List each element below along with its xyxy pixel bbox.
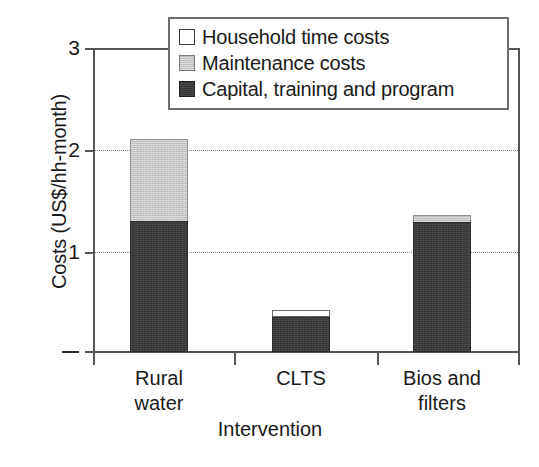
bar-chart-figure: Costs (US$/hh-month) 3 2 1: [0, 0, 539, 467]
x-axis-title: Intervention: [170, 418, 370, 441]
legend-label-capital-training-and-program: Capital, training and program: [202, 79, 454, 99]
axis-right-spine: [518, 48, 520, 353]
legend-label-household-time-costs: Household time costs: [202, 27, 389, 47]
y-tick-label-2: 2: [44, 139, 80, 160]
x-category-line2-rural-water: water: [84, 391, 234, 416]
chart-legend: Household time costs Maintenance costs C…: [168, 17, 509, 110]
y-tick-mark-3: [85, 48, 95, 50]
x-category-label-clts: CLTS: [226, 366, 376, 391]
bar-segment-clts-capital: [272, 317, 330, 352]
legend-swatch-white-icon: [179, 29, 195, 45]
y-axis-title: Costs (US$/hh-month): [48, 47, 71, 337]
legend-item-capital-training-and-program: Capital, training and program: [179, 76, 500, 102]
y-tick-label-0: [62, 351, 79, 353]
x-tick-mark-1: [234, 353, 236, 365]
x-category-line2-bios-and-filters: filters: [367, 391, 517, 416]
axis-left-spine: [93, 48, 95, 353]
legend-swatch-gray-icon: [179, 55, 195, 71]
x-category-label-bios-and-filters: Bios and filters: [367, 366, 517, 416]
legend-label-maintenance-costs: Maintenance costs: [202, 53, 365, 73]
legend-swatch-dark-icon: [179, 81, 195, 97]
x-category-line1-clts: CLTS: [226, 366, 376, 391]
y-tick-label-3: 3: [44, 37, 80, 58]
x-category-line1-rural-water: Rural: [84, 366, 234, 391]
x-category-line1-bios-and-filters: Bios and: [367, 366, 517, 391]
bar-segment-rural-water-capital: [130, 221, 188, 352]
legend-item-household-time-costs: Household time costs: [179, 24, 500, 50]
bar-segment-rural-water-maintenance: [130, 139, 188, 222]
y-tick-mark-1: [85, 252, 95, 254]
bar-segment-bios-and-filters-capital: [413, 222, 471, 352]
y-tick-mark-2: [85, 150, 95, 152]
x-tick-mark-0: [93, 353, 95, 365]
x-tick-mark-3: [518, 353, 520, 365]
bar-segment-clts-household-time: [272, 310, 330, 317]
y-tick-label-1: 1: [44, 241, 80, 262]
x-category-label-rural-water: Rural water: [84, 366, 234, 416]
legend-item-maintenance-costs: Maintenance costs: [179, 50, 500, 76]
x-tick-mark-2: [377, 353, 379, 365]
